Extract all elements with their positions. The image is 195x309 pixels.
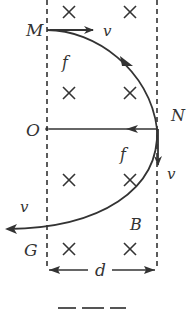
magnetic-field-diagram: M v f N O f v v B G d: [0, 0, 195, 309]
point-O-dot: [45, 127, 49, 131]
label-v-at-N: v: [167, 165, 176, 183]
cross-icon: [63, 243, 75, 255]
figure-caption-cut-off: [58, 296, 138, 302]
label-d: d: [95, 260, 106, 280]
cross-icon: [124, 87, 136, 99]
label-B: B: [129, 215, 142, 234]
field-crosses: [63, 6, 136, 255]
label-f-near-M: f: [61, 53, 71, 72]
cross-icon: [124, 243, 136, 255]
label-O: O: [26, 120, 40, 140]
label-v-at-M: v: [103, 22, 112, 40]
cross-icon: [124, 6, 136, 18]
label-G: G: [24, 240, 38, 260]
cross-icon: [63, 174, 75, 186]
label-v-at-G: v: [20, 198, 29, 216]
cross-icon: [63, 87, 75, 99]
trajectory-direction-arrow-icon: [120, 56, 133, 66]
cross-icon: [124, 174, 136, 186]
label-f-at-N: f: [119, 145, 129, 164]
label-N: N: [170, 106, 186, 125]
label-M: M: [25, 20, 44, 40]
cross-icon: [63, 6, 75, 18]
